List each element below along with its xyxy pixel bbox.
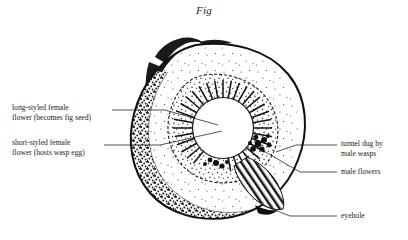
- label-male-flowers: male flowers: [341, 167, 380, 177]
- label-short-styled-female-flower: short-styled female flower (hosts wasp e…: [12, 138, 85, 157]
- label-line: male wasps: [341, 149, 383, 159]
- label-eyehole: eyehole: [341, 211, 365, 221]
- label-line: flower (becomes fig seed): [12, 113, 91, 123]
- label-line: flower (hosts wasp egg): [12, 148, 85, 158]
- label-long-styled-female-flower: long-styled female flower (becomes fig s…: [12, 103, 91, 122]
- label-line: eyehole: [341, 211, 365, 221]
- label-line: male flowers: [341, 167, 380, 177]
- label-line: tunnel dug by: [341, 139, 383, 149]
- label-line: long-styled female: [12, 103, 91, 113]
- figure-page: Fig: [0, 0, 408, 240]
- label-line: short-styled female: [12, 138, 85, 148]
- label-tunnel-dug-by-male-wasps: tunnel dug by male wasps: [341, 139, 383, 158]
